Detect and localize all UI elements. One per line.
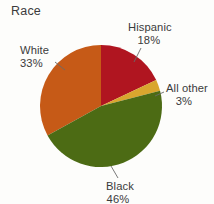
slice-label-hispanic: Hispanic 18% [128,21,172,46]
slice-label-all-other-percent: 3% [166,95,208,108]
slice-label-hispanic-name: Hispanic [128,21,172,33]
slice-label-black: Black 46% [106,180,134,204]
slice-label-hispanic-percent: 18% [128,34,172,47]
slice-label-white-name: White [20,44,49,56]
slice-label-all-other: All other 3% [166,82,208,107]
slice-label-white: White 33% [20,44,51,69]
slice-label-white-percent: 33% [20,57,51,70]
pie-chart-figure: Race White 33% Hispanic 18% All other 3%… [0,0,214,204]
slice-label-all-other-name: All other [166,82,208,94]
slice-label-black-name: Black [106,180,134,192]
leader-line-black [111,166,118,178]
slice-label-black-percent: 46% [106,193,134,204]
